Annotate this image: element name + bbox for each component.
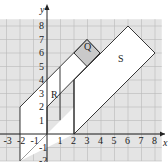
svg-text:-1: -1 <box>31 135 39 146</box>
coordinate-diagram: y x Q S R -3-2-112345678 -2-112345678 <box>0 0 168 162</box>
svg-text:3: 3 <box>39 88 44 99</box>
svg-text:4: 4 <box>39 74 44 85</box>
svg-text:6: 6 <box>125 135 130 146</box>
x-axis-label: x <box>162 137 168 148</box>
svg-text:-2: -2 <box>17 135 25 146</box>
label-r: R <box>51 89 58 100</box>
svg-text:1: 1 <box>39 115 44 126</box>
svg-text:2: 2 <box>39 101 44 112</box>
y-axis-label: y <box>39 4 45 15</box>
svg-text:-3: -3 <box>4 135 12 146</box>
svg-text:2: 2 <box>71 135 76 146</box>
svg-text:7: 7 <box>39 34 44 45</box>
y-arrow-icon <box>45 4 50 10</box>
svg-text:-1: -1 <box>39 142 47 153</box>
svg-text:4: 4 <box>98 135 103 146</box>
svg-text:3: 3 <box>85 135 90 146</box>
x-arrow-icon <box>160 132 165 137</box>
svg-text:8: 8 <box>39 20 44 31</box>
label-s: S <box>118 53 124 64</box>
label-q: Q <box>84 41 92 52</box>
svg-text:6: 6 <box>39 47 44 58</box>
svg-text:5: 5 <box>39 61 44 72</box>
svg-text:-2: -2 <box>39 155 47 162</box>
svg-text:5: 5 <box>112 135 117 146</box>
svg-text:8: 8 <box>152 135 157 146</box>
diagram-canvas: y x Q S R -3-2-112345678 -2-112345678 <box>0 0 168 162</box>
svg-text:7: 7 <box>139 135 144 146</box>
svg-text:1: 1 <box>58 135 63 146</box>
